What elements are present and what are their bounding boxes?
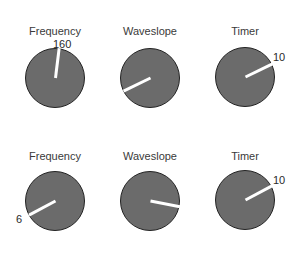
waveslope-knob[interactable] (120, 48, 180, 108)
frequency-knob[interactable] (25, 48, 85, 108)
knob-value-frequency: 6 (16, 213, 22, 225)
frequency-knob[interactable] (25, 171, 85, 231)
needle-indicator (54, 48, 61, 78)
knob-label-frequency: Frequency (10, 150, 100, 162)
waveslope-knob[interactable] (120, 171, 180, 231)
needle-indicator (150, 200, 180, 209)
needle-indicator (244, 185, 272, 202)
knob-label-timer: Timer (200, 150, 290, 162)
needle-indicator (244, 63, 272, 79)
knob-label-frequency: Frequency (10, 25, 100, 37)
timer-knob[interactable] (215, 170, 275, 230)
knob-label-timer: Timer (200, 25, 290, 37)
knob-value-timer: 10 (273, 174, 285, 186)
knob-label-waveslope: Waveslope (105, 25, 195, 37)
needle-indicator (28, 200, 56, 217)
timer-knob[interactable] (215, 47, 275, 107)
knob-label-waveslope: Waveslope (105, 150, 195, 162)
knob-value-timer: 10 (273, 51, 285, 63)
needle-indicator (122, 77, 150, 93)
